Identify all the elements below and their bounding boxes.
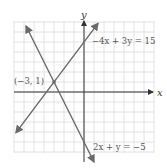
lines-layer <box>16 23 98 162</box>
coordinate-graph: x y (−3, 1) −4x + 3y = 15 2x + y = −5 <box>0 0 167 168</box>
line1-label: −4x + 3y = 15 <box>92 36 155 46</box>
line2-label: 2x + y = −5 <box>93 142 146 152</box>
intersection-point <box>52 80 56 84</box>
y-axis-label: y <box>80 9 87 20</box>
x-axis-label: x <box>157 87 163 98</box>
point-label: (−3, 1) <box>14 76 44 86</box>
